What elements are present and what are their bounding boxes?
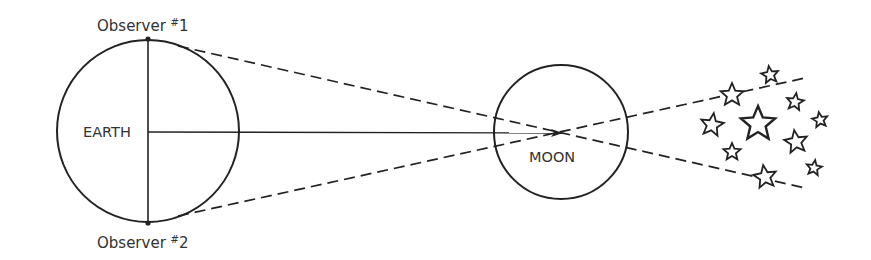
observer-2-point bbox=[145, 220, 150, 225]
diagram-canvas: Observer #1 Observer #2 EARTH MOON bbox=[0, 0, 871, 260]
star-icon bbox=[787, 93, 804, 110]
star-icon bbox=[741, 106, 775, 139]
observer-1-point bbox=[145, 36, 150, 41]
star-icon bbox=[753, 165, 776, 188]
star-icon bbox=[812, 112, 827, 127]
star-icon bbox=[701, 113, 724, 136]
parallax-diagram: Observer #1 Observer #2 EARTH MOON bbox=[0, 0, 871, 260]
earth-moon-line bbox=[148, 132, 562, 133]
sight-line-observer-2 bbox=[178, 78, 805, 216]
star-icon bbox=[723, 143, 740, 159]
star-icon bbox=[721, 83, 744, 105]
star-icon bbox=[761, 66, 778, 83]
background-stars bbox=[701, 66, 827, 188]
earth-label: EARTH bbox=[83, 124, 131, 140]
star-icon bbox=[807, 160, 822, 175]
observer-2-label: Observer #2 bbox=[97, 234, 189, 252]
star-icon bbox=[784, 130, 807, 153]
moon-label: MOON bbox=[529, 149, 575, 165]
observer-1-label: Observer #1 bbox=[97, 17, 189, 35]
